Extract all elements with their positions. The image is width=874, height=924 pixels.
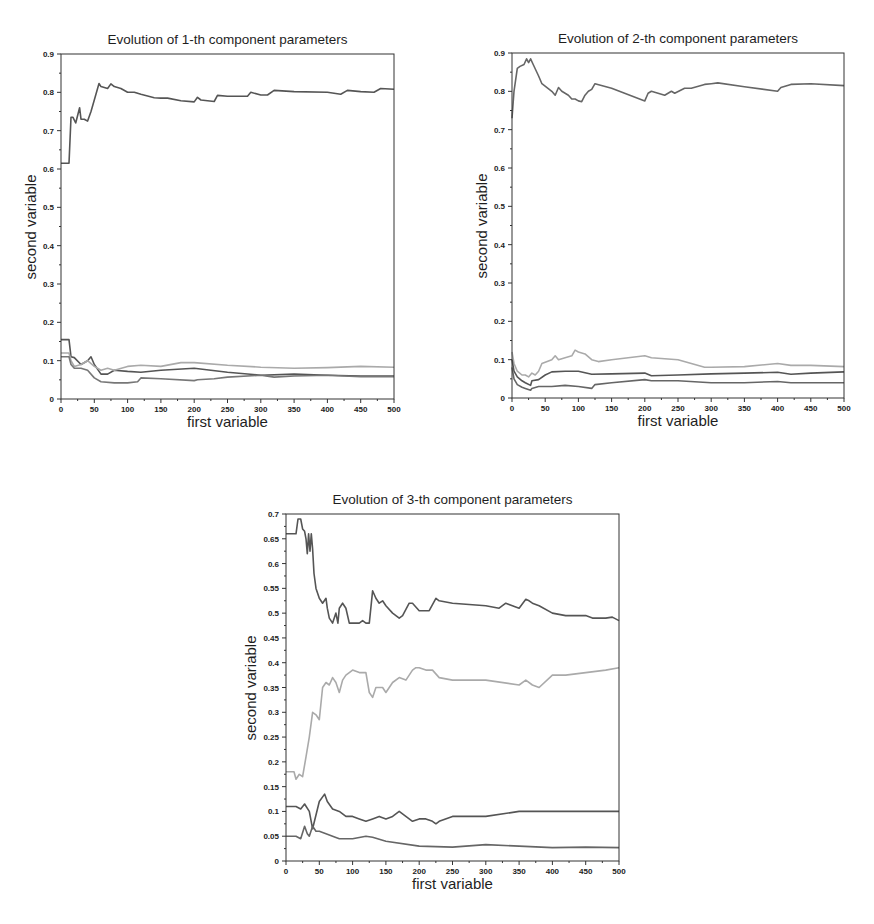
y-tick-label: 0.05: [263, 832, 279, 841]
x-tick-label: 0: [284, 867, 289, 876]
x-tick-label: 250: [446, 867, 460, 876]
y-tick-label: 0.5: [268, 609, 280, 618]
y-tick-label: 0.45: [263, 634, 279, 643]
y-tick-label: 0.65: [263, 535, 279, 544]
x-tick-label: 50: [315, 867, 324, 876]
y-tick-label: 0.6: [268, 560, 280, 569]
x-tick-label: 500: [612, 867, 626, 876]
x-tick-label: 300: [479, 867, 493, 876]
data-line-series-1: [286, 519, 619, 623]
y-tick-label: 0.2: [268, 758, 280, 767]
x-tick-label: 100: [346, 867, 360, 876]
y-tick-label: 0.25: [263, 733, 279, 742]
data-line-series-3: [286, 794, 619, 829]
y-tick-label: 0.4: [268, 659, 280, 668]
y-tick-label: 0.1: [268, 807, 280, 816]
y-tick-label: 0.15: [263, 783, 279, 792]
x-tick-label: 450: [579, 867, 593, 876]
y-tick-label: 0: [275, 857, 280, 866]
data-line-series-4: [286, 826, 619, 847]
plot-frame: [286, 514, 619, 861]
y-tick-label: 0.7: [268, 510, 280, 519]
x-tick-label: 350: [512, 867, 526, 876]
plot-area: 05010015020025030035040045050000.050.10.…: [0, 0, 874, 924]
x-tick-label: 200: [413, 867, 427, 876]
x-tick-label: 400: [546, 867, 560, 876]
y-tick-label: 0.55: [263, 584, 279, 593]
data-line-series-2: [286, 668, 619, 780]
y-tick-label: 0.3: [268, 708, 280, 717]
y-tick-label: 0.35: [263, 684, 279, 693]
x-tick-label: 150: [379, 867, 393, 876]
